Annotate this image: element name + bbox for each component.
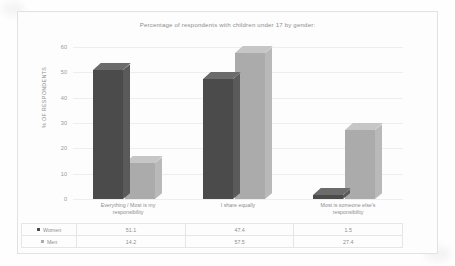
category-label-0: Everything / Most is myresponsibility — [73, 202, 183, 217]
legend-cell-women[interactable]: Women — [22, 224, 77, 236]
plot-area: 0102030405060 — [73, 47, 403, 199]
chart-title: Percentage of respondents with children … — [0, 21, 455, 28]
y-axis-tick-label: 50 — [61, 69, 67, 75]
y-axis-tick-label: 30 — [61, 120, 67, 126]
bar-women-1[interactable] — [203, 79, 233, 199]
y-axis-tick-label: 40 — [61, 95, 67, 101]
y-axis-tick-label: 60 — [61, 44, 67, 50]
legend-cell-men[interactable]: Men — [22, 236, 77, 248]
category-label-line: I share equally — [183, 202, 293, 209]
category-label-line: Most is someone else's — [293, 202, 403, 209]
bar-group — [293, 47, 403, 199]
legend-swatch-icon — [37, 228, 40, 231]
table-value-cell: 47.4 — [185, 224, 294, 236]
data-table: Women51.147.41.5Men14.257.527.4 — [21, 223, 403, 248]
table-value-cell: 51.1 — [77, 224, 186, 236]
y-axis-tick-label: 20 — [61, 145, 67, 151]
table-row: Men14.257.527.4 — [22, 236, 403, 248]
table-value-cell: 14.2 — [77, 236, 186, 248]
bar-front-face — [313, 195, 343, 199]
category-label-line: responsibility — [73, 209, 183, 216]
bar-front-face — [203, 79, 233, 199]
y-axis-title: % OF RESPONDENTS — [41, 67, 47, 128]
table-value-cell: 57.5 — [185, 236, 294, 248]
category-label-2: Most is someone else'sresponsibility — [293, 202, 403, 217]
bar-women-2[interactable] — [313, 195, 343, 199]
bar-women-0[interactable] — [93, 70, 123, 199]
table-value-cell: 1.5 — [294, 224, 403, 236]
bar-group — [73, 47, 183, 199]
bar-side-face — [123, 64, 130, 199]
bar-side-face — [233, 73, 240, 199]
legend-label: Men — [47, 239, 57, 245]
y-axis-tick-label: 10 — [61, 171, 67, 177]
category-label-line: Everything / Most is my — [73, 202, 183, 209]
bar-side-face — [375, 124, 382, 199]
category-axis-labels: Everything / Most is myresponsibilityI s… — [73, 202, 403, 222]
legend-swatch-icon — [41, 240, 44, 243]
legend-label: Women — [43, 227, 61, 233]
bar-side-face — [265, 47, 272, 199]
bar-group — [183, 47, 293, 199]
bar-side-face — [155, 157, 162, 199]
chart-page: Percentage of respondents with children … — [0, 0, 455, 266]
table-row: Women51.147.41.5 — [22, 224, 403, 236]
category-label-1: I share equally — [183, 202, 293, 209]
category-label-line: responsibility — [293, 209, 403, 216]
table-value-cell: 27.4 — [294, 236, 403, 248]
bar-front-face — [93, 70, 123, 199]
y-axis-tick-label: 0 — [64, 196, 67, 202]
